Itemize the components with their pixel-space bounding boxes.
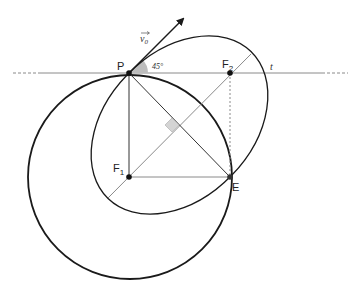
label-t: t <box>270 61 273 72</box>
right-angle-marker <box>165 118 179 132</box>
label-f2: F2 <box>222 58 234 73</box>
svg-text:v0: v0 <box>140 33 148 46</box>
point-p <box>126 70 132 76</box>
label-p: P <box>117 60 124 72</box>
label-f1: F1 <box>113 162 125 177</box>
label-e: E <box>232 181 239 193</box>
point-f1 <box>126 174 132 180</box>
diagram-canvas: P F1 F2 E v0 45° t <box>0 0 359 288</box>
label-angle: 45° <box>152 62 164 71</box>
point-e <box>227 174 233 180</box>
label-velocity: v0 <box>140 32 150 47</box>
